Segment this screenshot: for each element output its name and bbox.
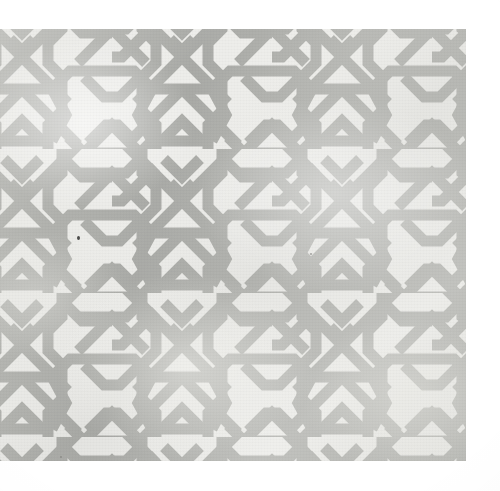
ink-speck-icon <box>310 253 312 255</box>
ink-speck-icon <box>60 456 62 458</box>
interlace-pattern <box>0 29 466 461</box>
ink-wear-overlay <box>0 29 466 461</box>
ink-speck-icon <box>77 236 80 240</box>
textile-ground <box>0 29 466 461</box>
photo-margin-top <box>0 0 500 29</box>
photo-margin-bottom <box>0 461 500 491</box>
artwork-canvas: Islamic geometric interlace (strapwork) … <box>0 0 500 491</box>
photo-margin-right <box>466 0 500 491</box>
